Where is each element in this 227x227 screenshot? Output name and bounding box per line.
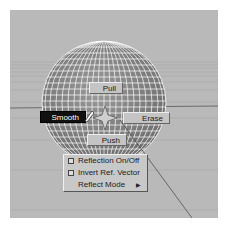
menu-item-reflect-mode[interactable]: Reflect Mode ▶	[64, 179, 147, 191]
marking-menu-pull[interactable]: Pull	[89, 82, 123, 94]
pen-cursor-icon	[83, 109, 95, 123]
quad-menu: Reflection On/Off Invert Ref. Vector Ref…	[63, 154, 148, 192]
checkbox-icon[interactable]	[68, 170, 74, 176]
submenu-arrow-icon: ▶	[136, 179, 141, 191]
marking-menu-smooth[interactable]: Smooth	[40, 111, 86, 123]
menu-item-invert-ref-vector[interactable]: Invert Ref. Vector	[64, 167, 147, 179]
marking-menu-push[interactable]: Push	[87, 134, 127, 146]
menu-item-reflection-toggle[interactable]: Reflection On/Off	[64, 155, 147, 167]
checkbox-icon[interactable]	[68, 158, 74, 164]
marking-menu-erase[interactable]: Erase	[123, 112, 170, 124]
